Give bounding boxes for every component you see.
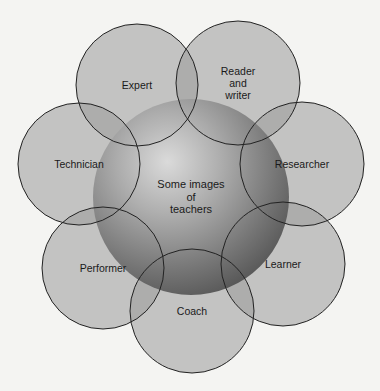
label-coach: Coach [177,305,207,317]
label-reader-writer: Reader and writer [221,65,255,101]
label-learner: Learner [265,258,301,270]
label-expert: Expert [122,79,152,91]
label-technician: Technician [54,158,104,170]
center-label: Some images of teachers [157,178,224,216]
label-researcher: Researcher [275,158,329,170]
label-performer: Performer [80,262,127,274]
